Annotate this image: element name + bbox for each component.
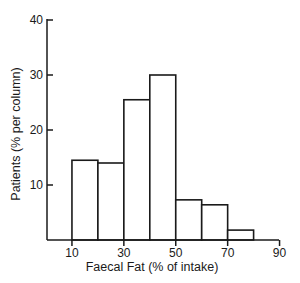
histogram-bar [150,75,176,240]
x-tick-label: 90 [273,246,287,260]
histogram-bar [228,230,254,240]
histogram-bar [176,200,202,240]
y-ticks: 10203040 [30,13,53,192]
y-tick-label: 20 [30,123,44,137]
x-tick-label: 30 [117,246,131,260]
y-axis-label: Patients (% per column) [9,67,23,200]
histogram-bars [72,75,254,240]
x-axis-label: Faecal Fat (% of intake) [86,260,219,274]
x-tick-label: 50 [169,246,183,260]
histogram-bar [98,163,124,240]
y-tick-label: 10 [30,178,44,192]
y-tick-label: 40 [30,13,44,27]
histogram-chart: 10203040 1030507090 Faecal Fat (% of int… [0,0,300,283]
histogram-bar [124,100,150,240]
histogram-bar [72,160,98,240]
x-tick-label: 70 [221,246,235,260]
x-ticks: 1030507090 [65,240,286,260]
x-tick-label: 10 [65,246,79,260]
histogram-bar [202,205,228,240]
y-tick-label: 30 [30,68,44,82]
